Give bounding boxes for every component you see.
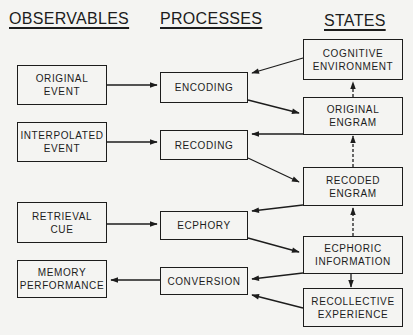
- heading-states: STATES: [324, 12, 386, 30]
- box-label-line: EVENT: [36, 85, 89, 98]
- heading-processes: PROCESSES: [160, 10, 262, 28]
- box-recollective-experience: RECOLLECTIVE EXPERIENCE: [303, 288, 403, 327]
- box-label-line: EVENT: [20, 142, 103, 155]
- box-label-line: EXPERIENCE: [311, 308, 394, 321]
- box-conversion: CONVERSION: [160, 267, 248, 295]
- arrow-ecphory-to-ecphoric-information: [248, 238, 299, 252]
- box-ecphoric-information: ECPHORIC INFORMATION: [303, 236, 403, 274]
- box-retrieval-cue: RETRIEVAL CUE: [17, 202, 107, 243]
- box-label-line: ORIGINAL: [327, 103, 380, 116]
- box-label-line: PERFORMANCE: [20, 279, 104, 292]
- box-interpolated-event: INTERPOLATED EVENT: [17, 122, 107, 162]
- box-label-line: ENCODING: [175, 81, 234, 94]
- arrow-recoded-engram-to-ecphory: [252, 205, 303, 211]
- arrow-encoding-to-original-engram: [248, 100, 299, 113]
- box-recoded-engram: RECODED ENGRAM: [303, 167, 403, 206]
- arrow-recoding-to-recoded-engram: [248, 158, 299, 182]
- box-label-line: ENGRAM: [326, 187, 380, 200]
- box-label-line: MEMORY: [20, 266, 104, 279]
- arrow-recollective-experience-to-conversion: [252, 295, 303, 308]
- box-cognitive-environment: COGNITIVE ENVIRONMENT: [303, 39, 403, 80]
- box-label-line: RECODING: [175, 139, 234, 152]
- box-label-line: RECODED: [326, 174, 380, 187]
- box-label-line: ENGRAM: [327, 116, 380, 129]
- arrow-cognitive-environment-to-encoding: [252, 58, 303, 73]
- box-label-line: ECPHORIC: [315, 242, 391, 255]
- box-label-line: INFORMATION: [315, 255, 391, 268]
- memory-model-diagram: OBSERVABLES PROCESSES STATES ORIGINAL EV…: [0, 0, 413, 335]
- box-original-engram: ORIGINAL ENGRAM: [303, 97, 403, 135]
- heading-observables: OBSERVABLES: [9, 10, 129, 28]
- box-label-line: ENVIRONMENT: [313, 60, 394, 73]
- box-label-line: ORIGINAL: [36, 72, 89, 85]
- box-label-line: ECPHORY: [177, 219, 230, 232]
- box-label-line: RETRIEVAL: [32, 210, 92, 223]
- box-memory-performance: MEMORY PERFORMANCE: [17, 260, 107, 298]
- box-encoding: ENCODING: [160, 72, 248, 103]
- box-label-line: CUE: [32, 223, 92, 236]
- box-recoding: RECODING: [160, 130, 248, 160]
- box-ecphory: ECPHORY: [160, 211, 248, 240]
- arrow-ecphoric-information-to-conversion: [252, 273, 303, 279]
- box-label-line: CONVERSION: [167, 275, 240, 288]
- box-original-event: ORIGINAL EVENT: [17, 65, 107, 105]
- box-label-line: COGNITIVE: [313, 47, 394, 60]
- box-label-line: RECOLLECTIVE: [311, 295, 394, 308]
- box-label-line: INTERPOLATED: [20, 129, 103, 142]
